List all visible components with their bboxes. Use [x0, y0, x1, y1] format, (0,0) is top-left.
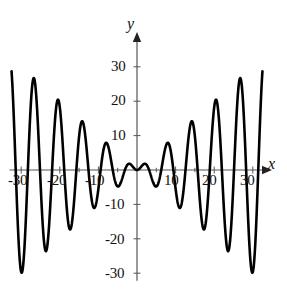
y-tick-label-neg20: -20 — [105, 231, 124, 248]
y-tick-label-30: 30 — [111, 58, 125, 75]
y-tick-label-20: 20 — [111, 92, 125, 109]
axes-layer — [10, 32, 272, 281]
y-tick-label-10: 10 — [111, 127, 125, 144]
x-tick-label-neg10: -10 — [85, 172, 104, 189]
x-axis-label: x — [268, 155, 275, 173]
y-tick-label-neg30: -30 — [105, 265, 124, 282]
x-tick-label-20: 20 — [202, 172, 216, 189]
function-plot-canvas — [0, 0, 287, 293]
y-tick-label-neg10: -10 — [105, 196, 124, 213]
x-tick-label-10: 10 — [164, 172, 178, 189]
x-tick-label-30: 30 — [240, 172, 254, 189]
y-axis-label: y — [127, 15, 134, 33]
x-tick-label-neg30: -30 — [8, 172, 27, 189]
chart-figure: y x -30 -20 -10 10 20 30 30 20 10 -10 -2… — [0, 0, 287, 293]
y-axis-arrowhead — [133, 32, 141, 42]
x-tick-label-neg20: -20 — [47, 172, 66, 189]
